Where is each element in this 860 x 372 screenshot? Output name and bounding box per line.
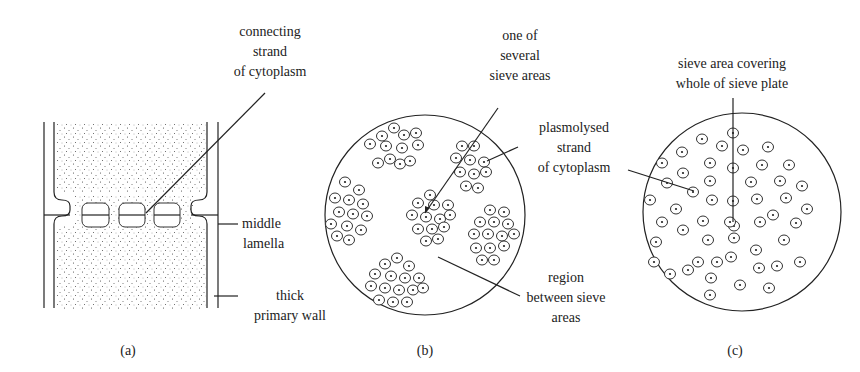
caption-c: (c) (727, 343, 743, 359)
caption-a: (a) (120, 343, 136, 359)
lower-cytoplasm (56, 226, 206, 310)
sieve-plate-figure: connecting strand of cytoplasm middle la… (0, 0, 860, 372)
sieve-area-pores (326, 123, 520, 307)
label-middle-lamella-1: middle (242, 216, 281, 231)
panel-a: connecting strand of cytoplasm middle la… (44, 24, 326, 359)
label-region-2: between sieve (527, 290, 606, 305)
panel-b: one of several sieve areas plasmolysed s… (325, 28, 610, 359)
panel-c: sieve area covering whole of sieve plate… (628, 56, 841, 359)
label-sieve-area-3: sieve areas (489, 68, 550, 83)
label-connecting-strand-1: connecting (239, 24, 300, 39)
label-thick-primary-wall-1: thick (276, 288, 304, 303)
label-sieve-area-1: one of (502, 28, 538, 43)
label-sieve-whole-2: whole of sieve plate (676, 76, 788, 91)
label-thick-primary-wall-2: primary wall (254, 308, 326, 323)
connecting-strands (82, 203, 180, 227)
label-connecting-strand-2: strand (253, 44, 287, 59)
upper-cytoplasm (56, 122, 206, 192)
label-sieve-area-2: several (500, 48, 540, 63)
label-region-3: areas (552, 310, 581, 325)
label-plasmolysed-3: of cytoplasm (538, 160, 611, 175)
caption-b: (b) (417, 343, 434, 359)
label-plasmolysed-1: plasmolysed (539, 120, 609, 135)
label-middle-lamella-2: lamella (243, 236, 285, 251)
sieve-plate-pores (645, 128, 813, 300)
label-plasmolysed-2: strand (557, 140, 591, 155)
label-connecting-strand-3: of cytoplasm (234, 64, 307, 79)
leader-plasmolysed-strand (487, 147, 518, 161)
label-sieve-whole-1: sieve area covering (678, 56, 786, 71)
label-region-1: region (548, 270, 584, 285)
